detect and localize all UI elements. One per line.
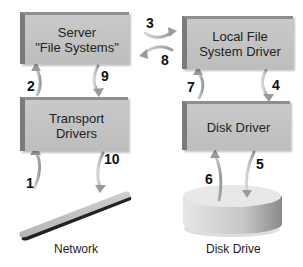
- network-label: Network: [54, 242, 98, 256]
- localfs-box-line2: System Driver: [199, 44, 281, 59]
- transport-drivers-box: Transport Drivers: [20, 97, 128, 151]
- disk-driver-box: Disk Driver: [182, 101, 290, 150]
- step-6: 6: [205, 172, 213, 186]
- arrow-1: [34, 152, 40, 188]
- server-box-line2: "File Systems": [35, 40, 119, 55]
- arrow-9: [94, 66, 98, 92]
- arrow-7: [198, 72, 203, 98]
- disk-drive-cylinder: [183, 185, 282, 237]
- diagram-canvas: Server "File Systems" Transport Drivers …: [0, 0, 303, 267]
- transport-box-line2: Drivers: [56, 126, 97, 141]
- step-5: 5: [256, 157, 264, 171]
- server-file-systems-box: Server "File Systems": [20, 12, 129, 64]
- disk-driver-box-line1: Disk Driver: [207, 120, 271, 135]
- step-1: 1: [26, 176, 34, 190]
- arrow-2: [36, 68, 40, 95]
- step-4: 4: [272, 78, 280, 92]
- step-8: 8: [161, 53, 169, 67]
- disk-drive-label: Disk Drive: [206, 242, 261, 256]
- step-2: 2: [27, 79, 35, 93]
- arrow-3: [145, 32, 172, 37]
- network-bar: [19, 192, 131, 241]
- arrow-10: [98, 153, 103, 188]
- step-7: 7: [187, 80, 195, 94]
- arrow-4: [262, 70, 268, 97]
- transport-box-line1: Transport: [49, 111, 104, 126]
- step-3: 3: [146, 16, 154, 30]
- step-10: 10: [104, 152, 120, 166]
- server-box-line1: Server: [58, 25, 96, 40]
- local-file-system-driver-box: Local File System Driver: [182, 16, 293, 69]
- localfs-box-line1: Local File: [212, 29, 268, 44]
- step-9: 9: [101, 69, 109, 83]
